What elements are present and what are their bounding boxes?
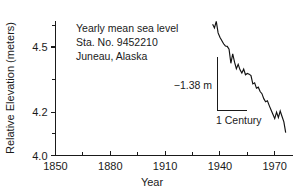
x-tick-label-1940: 1940 [208,160,232,172]
x-tick-label-1910: 1910 [153,160,177,172]
station-caption: Yearly mean sea level Sta. No. 9452210 J… [76,22,178,62]
x-axis-major-ticks [56,151,275,156]
scale-bar-horizontal-label: 1 Century [216,114,262,126]
scale-bar-vertical-label: −1.38 m [174,79,212,91]
y-tick-label-4.5: 4.5 [32,41,47,53]
sea-level-chart-figure: 4.54.24.0 18501880191019401970 Year Rela… [0,0,302,194]
x-tick-label-1970: 1970 [262,160,286,172]
scale-bar: −1.38 m 1 Century [174,57,263,126]
x-axis-title: Year [141,176,164,188]
caption-line-3: Juneau, Alaska [76,50,147,62]
x-axis-tick-labels: 18501880191019401970 [43,160,287,172]
y-axis-title: Relative Elevation (meters) [4,22,16,154]
y-axis-major-ticks [51,47,56,155]
caption-line-1: Yearly mean sea level [76,22,178,34]
x-tick-label-1880: 1880 [98,160,122,172]
y-axis-tick-labels: 4.54.24.0 [32,41,47,161]
x-tick-label-1850: 1850 [43,160,67,172]
caption-line-2: Sta. No. 9452210 [76,36,158,48]
y-tick-label-4.2: 4.2 [32,106,47,118]
chart-canvas: 4.54.24.0 18501880191019401970 Year Rela… [0,0,302,194]
scale-bar-bracket [218,57,248,111]
